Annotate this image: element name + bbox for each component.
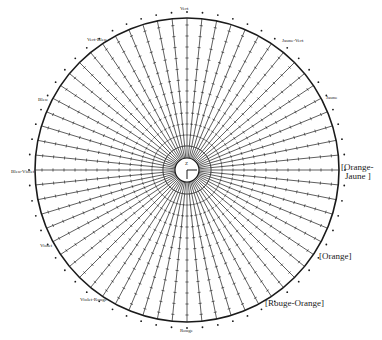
rim-dot <box>171 12 173 14</box>
tick-mark <box>179 135 182 136</box>
spoke-line <box>80 63 179 162</box>
rim-dot <box>232 320 234 322</box>
spoke-line <box>199 172 336 199</box>
tick-mark <box>205 71 208 72</box>
rim-dot <box>29 185 31 187</box>
tick-mark <box>212 301 215 302</box>
tick-mark <box>152 175 153 178</box>
tick-mark <box>232 177 233 180</box>
tick-mark <box>172 103 175 104</box>
spoke-line <box>195 178 294 277</box>
spoke-line <box>197 86 313 164</box>
spoke-line <box>80 178 179 277</box>
spoke-line <box>194 180 272 296</box>
tick-mark <box>243 157 244 160</box>
tick-mark <box>88 188 89 191</box>
tick-mark <box>44 197 45 200</box>
spoke-line <box>38 172 175 199</box>
tick-mark <box>275 151 276 154</box>
rim-dot <box>343 154 345 156</box>
tick-mark <box>307 192 308 195</box>
chromatic-circle-diagram: Z Vert Vert-Bleu Bleu Bleu-Violet Violet… <box>0 0 382 340</box>
tick-mark <box>221 175 222 178</box>
tick-mark <box>286 188 287 191</box>
tick-mark <box>109 153 110 156</box>
tick-mark <box>194 125 197 126</box>
spoke-line <box>192 181 246 310</box>
label-orange-jaune: [Orange- Jaune ] <box>341 163 373 182</box>
tick-mark <box>159 38 162 39</box>
tick-mark <box>159 301 162 302</box>
rim-dot <box>64 269 66 271</box>
spoke-line <box>38 140 175 167</box>
tick-mark <box>164 60 167 61</box>
rim-dot <box>155 324 157 326</box>
rim-dot <box>341 138 343 140</box>
tick-mark <box>152 162 153 165</box>
rim-dot <box>155 14 157 16</box>
color-wheel-svg: Z <box>0 0 382 340</box>
tick-mark <box>264 184 265 187</box>
spoke-line <box>47 175 176 229</box>
rim-dot <box>337 123 339 125</box>
spoke-line <box>189 21 216 158</box>
tick-mark <box>192 204 195 205</box>
spoke-line <box>197 177 313 255</box>
spoke-line <box>198 98 321 164</box>
tick-mark <box>161 49 164 50</box>
rim-dot <box>35 123 37 125</box>
spoke-line <box>103 44 181 160</box>
rim-dot <box>332 109 334 111</box>
tick-mark <box>318 195 319 198</box>
tick-mark <box>164 280 167 281</box>
tick-mark <box>207 60 210 61</box>
label-bleu: Bleu <box>38 97 47 102</box>
spoke-line <box>192 30 246 159</box>
rim-dot <box>86 291 88 293</box>
tick-mark <box>66 192 67 195</box>
label-jaune-vert: Jaune-Vert <box>282 38 303 43</box>
rim-dot <box>298 57 300 59</box>
spoke-line <box>61 86 177 164</box>
spoke-line <box>198 175 327 229</box>
tick-mark <box>199 103 202 104</box>
tick-mark <box>55 142 56 145</box>
rim-dot <box>202 12 204 14</box>
rim-dot <box>308 69 310 71</box>
tick-mark <box>329 197 330 200</box>
rim-dot <box>40 230 42 232</box>
spoke-line <box>193 36 259 159</box>
rim-dot <box>332 230 334 232</box>
rim-dot <box>171 326 173 328</box>
rim-dot <box>247 23 249 25</box>
rim-dot <box>232 18 234 20</box>
rim-dot <box>29 154 31 156</box>
tick-mark <box>203 258 206 259</box>
tick-mark <box>98 186 99 189</box>
spoke-line <box>189 182 216 319</box>
spoke-line <box>115 36 181 159</box>
tick-mark <box>297 147 298 150</box>
spoke-line <box>198 112 327 166</box>
rim-dot <box>64 69 66 71</box>
rim-dot <box>31 200 33 202</box>
tick-mark <box>253 155 254 158</box>
tick-mark <box>157 27 160 28</box>
tick-mark <box>197 114 200 115</box>
tick-mark <box>77 147 78 150</box>
tick-mark <box>131 180 132 183</box>
label-orange: [Orange] <box>319 252 351 261</box>
rim-dot <box>55 257 57 259</box>
label-bleu-violet: Bleu-Violet <box>11 169 34 174</box>
rim-dot <box>126 315 128 317</box>
tick-mark <box>161 290 164 291</box>
rim-dot <box>74 57 76 59</box>
tick-mark <box>142 177 143 180</box>
rim-dot <box>186 11 188 13</box>
rim-dot <box>286 291 288 293</box>
rim-dot <box>31 138 33 140</box>
tick-mark <box>176 125 179 126</box>
tick-mark <box>221 162 222 165</box>
spoke-line <box>53 98 176 164</box>
tick-mark <box>179 204 182 205</box>
